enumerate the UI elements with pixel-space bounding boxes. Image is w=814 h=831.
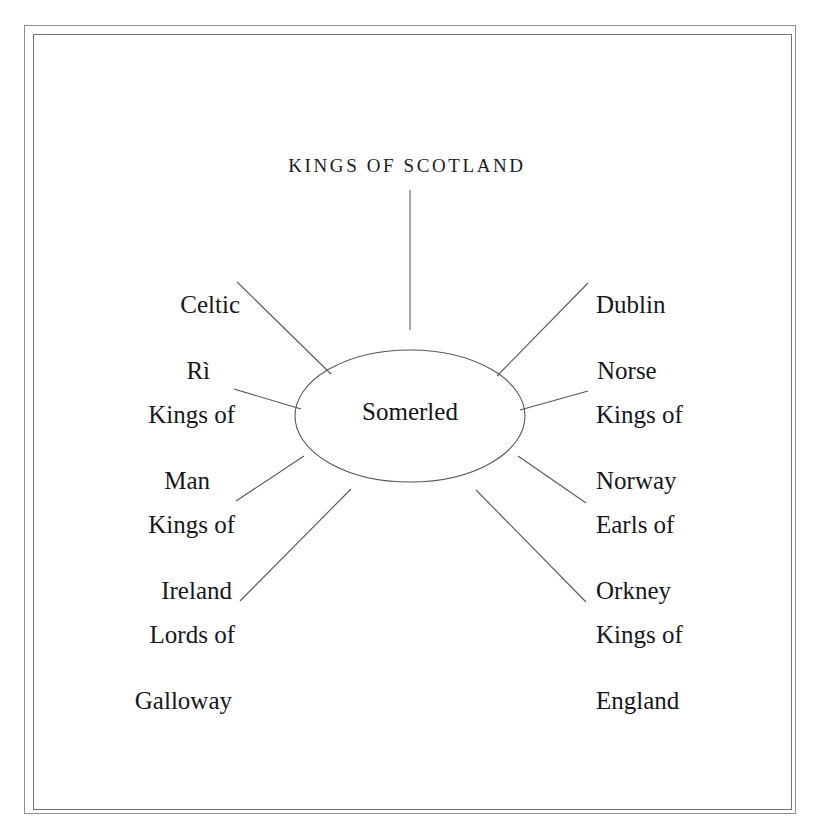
center-node-label: Somerled bbox=[295, 398, 525, 426]
connector-kings-of-ireland bbox=[236, 456, 304, 501]
connector-kings-of-norway bbox=[520, 391, 588, 410]
node-kings-of-england-line1: Kings of bbox=[596, 618, 796, 651]
node-kings-of-ireland-line1: Kings of bbox=[30, 508, 235, 541]
node-lords-of-galloway: Lords of Galloway bbox=[20, 585, 235, 750]
connector-kings-of-man bbox=[234, 389, 301, 409]
node-earls-of-orkney-line1: Earls of bbox=[596, 508, 796, 541]
connector-lords-of-galloway bbox=[240, 489, 351, 601]
connector-earls-of-orkney bbox=[518, 456, 586, 503]
node-lords-of-galloway-line2: Galloway bbox=[20, 684, 232, 717]
connector-celtic-ri bbox=[237, 282, 331, 374]
connector-kings-of-england bbox=[476, 490, 586, 602]
diagram-title: KINGS OF SCOTLAND bbox=[0, 155, 814, 177]
node-lords-of-galloway-line1: Lords of bbox=[20, 618, 235, 651]
connector-dublin-norse bbox=[497, 283, 588, 376]
node-dublin-norse-line1: Dublin bbox=[596, 288, 796, 321]
node-kings-of-norway-line1: Kings of bbox=[596, 398, 796, 431]
node-celtic-ri-line1: Celtic bbox=[40, 288, 240, 321]
diagram-page: KINGS OF SCOTLAND Somerled Celtic Rì Kin… bbox=[0, 0, 814, 831]
node-kings-of-man-line1: Kings of bbox=[30, 398, 235, 431]
node-kings-of-england-line2: England bbox=[596, 684, 796, 717]
node-kings-of-england: Kings of England bbox=[596, 585, 796, 750]
